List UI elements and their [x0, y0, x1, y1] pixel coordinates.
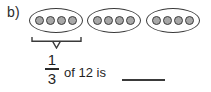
fraction-one-third: 1 3: [45, 52, 59, 85]
counter-dot: [185, 16, 194, 25]
counter-dot: [126, 16, 135, 25]
answer-blank[interactable]: [122, 79, 165, 81]
counter-dot: [93, 16, 102, 25]
question-text: of 12 is: [64, 65, 106, 80]
counter-group: [29, 8, 83, 33]
counter-groups-row: [29, 8, 204, 35]
counter-dot: [68, 16, 77, 25]
counter-dot: [104, 16, 113, 25]
fraction-sentence: 1 3 of 12 is: [45, 52, 106, 86]
counter-dot: [152, 16, 161, 25]
counter-dot: [174, 16, 183, 25]
counter-dot: [35, 16, 44, 25]
worksheet-item: b) 1 3: [0, 0, 211, 92]
counter-dot: [115, 16, 124, 25]
fraction-denominator: 3: [46, 70, 58, 86]
counter-group: [146, 8, 200, 33]
counter-dot: [57, 16, 66, 25]
item-letter-label: b): [7, 4, 20, 20]
counter-group: [87, 8, 141, 33]
counter-dot: [46, 16, 55, 25]
group-brace-icon: [31, 37, 82, 49]
fraction-numerator: 1: [46, 52, 58, 68]
counter-dot: [163, 16, 172, 25]
